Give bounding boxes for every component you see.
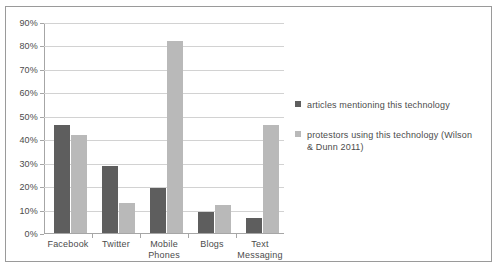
y-tick-label: 70% <box>4 66 38 75</box>
y-tick-label: 10% <box>4 207 38 216</box>
y-tick-mark <box>40 234 44 235</box>
bar <box>71 135 87 233</box>
y-tick-mark <box>40 93 44 94</box>
legend-label: protestors using this technology (Wilson… <box>307 130 472 152</box>
x-axis-label: Facebook <box>44 239 92 250</box>
x-axis-label: Mobile Phones <box>140 239 188 261</box>
y-tick-label: 40% <box>4 136 38 145</box>
bar <box>102 166 118 233</box>
legend-swatch-articles <box>295 101 301 107</box>
legend-item: protestors using this technology (Wilson… <box>295 129 475 153</box>
y-tick-mark <box>40 140 44 141</box>
y-tick-label: 30% <box>4 160 38 169</box>
y-axis-line <box>44 23 45 234</box>
y-tick-mark <box>40 211 44 212</box>
bar-group <box>193 23 241 233</box>
legend-item: articles mentioning this technology <box>295 99 475 111</box>
y-tick-mark <box>40 187 44 188</box>
y-tick-mark <box>40 70 44 71</box>
y-tick-mark <box>40 46 44 47</box>
bar-chart-figure: 90%80%70%60%50%40%30%20%10%0% FacebookTw… <box>5 6 492 262</box>
x-tick-mark <box>140 234 141 238</box>
y-tick-label: 60% <box>4 89 38 98</box>
bar-group <box>97 23 145 233</box>
bar <box>198 212 214 233</box>
legend-swatch-protestors <box>295 131 301 137</box>
bar <box>167 41 183 233</box>
y-tick-label: 80% <box>4 42 38 51</box>
y-tick-mark <box>40 117 44 118</box>
x-axis-label: Text Messaging <box>236 239 284 261</box>
bar <box>215 205 231 233</box>
y-tick-mark <box>40 164 44 165</box>
bar <box>54 125 70 233</box>
x-tick-mark <box>188 234 189 238</box>
bar <box>263 125 279 233</box>
x-tick-mark <box>92 234 93 238</box>
y-tick-label: 0% <box>4 230 38 239</box>
bar-group <box>241 23 289 233</box>
bar-group <box>145 23 193 233</box>
plot-area <box>44 23 284 234</box>
y-tick-label: 20% <box>4 183 38 192</box>
y-tick-label: 50% <box>4 113 38 122</box>
x-axis-label: Blogs <box>188 239 236 250</box>
x-tick-mark <box>236 234 237 238</box>
bar <box>246 218 262 233</box>
y-axis-tick-labels: 90%80%70%60%50%40%30%20%10%0% <box>0 23 38 234</box>
legend-label: articles mentioning this technology <box>307 100 450 110</box>
y-tick-label: 90% <box>4 19 38 28</box>
x-axis-line <box>44 233 284 234</box>
chart-legend: articles mentioning this technology prot… <box>295 99 475 171</box>
x-axis-category-labels: FacebookTwitterMobile PhonesBlogsText Me… <box>44 239 284 273</box>
bar-group <box>49 23 97 233</box>
y-tick-mark <box>40 23 44 24</box>
bar <box>150 188 166 233</box>
bar <box>119 203 135 233</box>
x-axis-label: Twitter <box>92 239 140 250</box>
